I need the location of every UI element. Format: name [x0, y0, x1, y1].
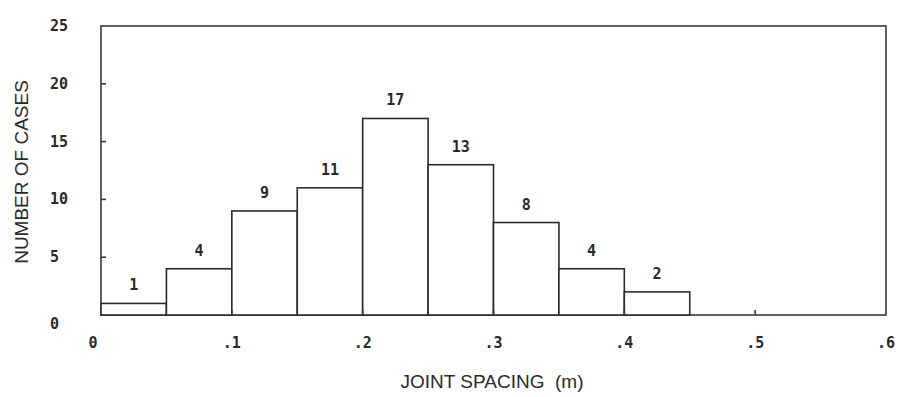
x-tick-label: .6 — [877, 334, 895, 352]
y-tick-label: 25 — [50, 17, 68, 35]
histogram-bar — [166, 269, 231, 315]
bar-value-label: 13 — [452, 138, 470, 156]
x-tick-label: .4 — [615, 334, 633, 352]
y-axis-ticks: 0510152025 — [50, 17, 106, 333]
histogram-bar — [297, 188, 362, 315]
histogram-bar — [363, 118, 428, 315]
bar-value-label: 9 — [260, 184, 269, 202]
bar-value-label: 8 — [522, 196, 531, 214]
bar-value-label: 17 — [386, 91, 404, 109]
histogram-bar — [559, 269, 624, 315]
histogram-bar — [428, 165, 493, 315]
bar-value-label: 4 — [195, 242, 204, 260]
bar-value-label: 11 — [321, 161, 339, 179]
x-tick-label: .2 — [354, 334, 372, 352]
histogram-chart: 149111713842 0510152025 0.1.2.3.4.5.6 JO… — [0, 0, 916, 397]
x-tick-label: .3 — [484, 334, 502, 352]
y-tick-label: 0 — [50, 315, 59, 333]
histogram-bar — [101, 303, 166, 315]
x-axis-title: JOINT SPACING (m) — [401, 371, 584, 392]
bar-value-label: 1 — [129, 276, 138, 294]
histogram-bar — [494, 223, 559, 315]
x-tick-label: .1 — [223, 334, 241, 352]
y-tick-label: 5 — [50, 248, 59, 266]
y-tick-label: 15 — [50, 133, 68, 151]
histogram-bar — [232, 211, 297, 315]
histogram-bar — [624, 292, 689, 315]
x-tick-label: 0 — [88, 334, 97, 352]
bar-value-label: 4 — [587, 242, 596, 260]
x-tick-label: .5 — [746, 334, 764, 352]
y-tick-label: 10 — [50, 190, 68, 208]
bar-value-label: 2 — [653, 265, 662, 283]
y-tick-label: 20 — [50, 75, 68, 93]
y-axis-title: NUMBER OF CASES — [11, 80, 32, 264]
x-axis-ticks: 0.1.2.3.4.5.6 — [88, 310, 895, 352]
bars — [101, 118, 690, 315]
